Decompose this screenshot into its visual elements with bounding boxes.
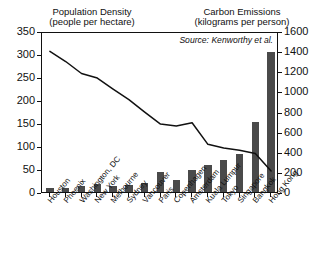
left-tick-150 — [37, 124, 41, 125]
left-tick-350 — [37, 32, 41, 33]
right-tick-1000 — [278, 92, 282, 93]
right-tick-200 — [278, 173, 282, 174]
left-tick-100 — [37, 147, 41, 148]
right-tick-1400 — [278, 52, 282, 53]
left-axis-units-text: (people per hectare) — [32, 17, 152, 27]
plot-inner: Source: Kenworthy et al. — [42, 33, 277, 192]
left-tick-200 — [37, 101, 41, 102]
right-tick-600 — [278, 133, 282, 134]
right-tick-1600 — [278, 32, 282, 33]
left-tick-label-50: 50 — [1, 163, 35, 175]
left-tick-label-350: 350 — [1, 25, 35, 37]
right-tick-label-1000: 1000 — [284, 85, 320, 97]
right-tick-1200 — [278, 72, 282, 73]
left-tick-label-150: 150 — [1, 117, 35, 129]
plot-area: Source: Kenworthy et al. — [41, 32, 278, 193]
left-tick-50 — [37, 170, 41, 171]
left-axis-title: Population Density (people per hectare) — [32, 7, 152, 28]
right-tick-label-1200: 1200 — [284, 65, 320, 77]
right-tick-label-400: 400 — [284, 146, 320, 158]
right-tick-label-600: 600 — [284, 126, 320, 138]
chart-figure: Population Density (people per hectare) … — [0, 0, 324, 269]
left-tick-label-0: 0 — [1, 186, 35, 198]
left-tick-300 — [37, 55, 41, 56]
left-tick-label-200: 200 — [1, 94, 35, 106]
line-series — [42, 33, 277, 192]
left-tick-label-300: 300 — [1, 48, 35, 60]
right-tick-label-1600: 1600 — [284, 25, 320, 37]
right-tick-label-800: 800 — [284, 106, 320, 118]
left-tick-label-250: 250 — [1, 71, 35, 83]
left-tick-label-100: 100 — [1, 140, 35, 152]
density-polyline — [50, 51, 271, 171]
right-tick-label-0: 0 — [284, 186, 320, 198]
right-tick-label-1400: 1400 — [284, 45, 320, 57]
left-tick-250 — [37, 78, 41, 79]
x-axis-labels: HoustonPhoenixWashington, DCNew YorkMelb… — [41, 197, 278, 267]
right-tick-400 — [278, 153, 282, 154]
right-tick-800 — [278, 113, 282, 114]
